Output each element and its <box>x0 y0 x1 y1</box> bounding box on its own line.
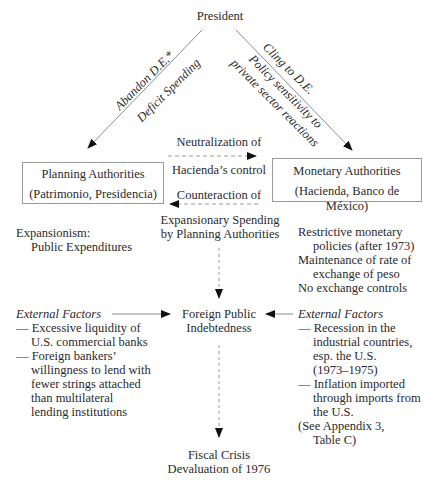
right-external-item: industrial countries, <box>313 335 412 350</box>
policy-line-3: Maintenance of rate of <box>298 253 411 268</box>
label-by-planning-authorities: by Planning Authorities <box>155 227 285 242</box>
left-external-item: — Foreign bankers’ <box>16 349 117 364</box>
left-external-item: than multilateral <box>31 391 113 406</box>
right-external-item: the U.S. <box>313 405 354 420</box>
node-president: President <box>175 9 265 24</box>
left-external-item: fewer strings attached <box>31 377 141 392</box>
right-external-item: (See Appendix 3, <box>298 419 384 434</box>
policy-line-5: No exchange controls <box>298 281 407 296</box>
right-external-item: — Recession in the <box>298 321 396 336</box>
label-neutralization: Neutralization of <box>160 135 278 150</box>
planning-authorities-box: Planning Authorities (Patrimonio, Presid… <box>22 162 164 204</box>
label-expansionary-spending: Expansionary Spending <box>155 213 285 228</box>
label-counteraction: Counteraction of <box>160 188 278 203</box>
planning-title: Planning Authorities <box>23 167 163 182</box>
node-indebtedness: Indebtedness <box>170 321 268 336</box>
left-external-heading: External Factors <box>16 307 101 322</box>
node-fiscal-crisis: Fiscal Crisis <box>150 448 288 463</box>
right-external-item: (1973–1975) <box>313 363 378 378</box>
right-external-item: esp. the U.S. <box>313 349 377 364</box>
node-foreign-public: Foreign Public <box>170 307 268 322</box>
left-external-item: U.S. commercial banks <box>31 335 148 350</box>
monetary-authorities-box: Monetary Authorities (Hacienda, Banco de… <box>272 158 422 202</box>
label-expansionism: Expansionism: <box>16 226 90 241</box>
policy-line-2: policies (after 1973) <box>313 239 414 254</box>
monetary-title: Monetary Authorities <box>273 164 421 179</box>
right-external-item: — Inflation imported <box>298 377 405 392</box>
left-external-item: willingness to lend with <box>31 363 151 378</box>
label-public-expenditures: Public Expenditures <box>31 240 132 255</box>
node-devaluation-1976: Devaluation of 1976 <box>150 462 288 477</box>
right-external-heading: External Factors <box>298 307 383 322</box>
right-external-item: through imports from <box>313 391 421 406</box>
planning-subtitle: (Patrimonio, Presidencia) <box>23 187 163 202</box>
monetary-subtitle: (Hacienda, Banco de México) <box>273 184 421 214</box>
right-external-item: Table C) <box>313 433 356 448</box>
left-external-item: lending institutions <box>31 405 127 420</box>
policy-line-1: Restrictive monetary <box>298 225 402 240</box>
label-hacienda-control: Hacienda’s control <box>160 163 278 178</box>
policy-line-4: exchange of peso <box>313 267 400 282</box>
left-external-item: — Excessive liquidity of <box>16 321 141 336</box>
